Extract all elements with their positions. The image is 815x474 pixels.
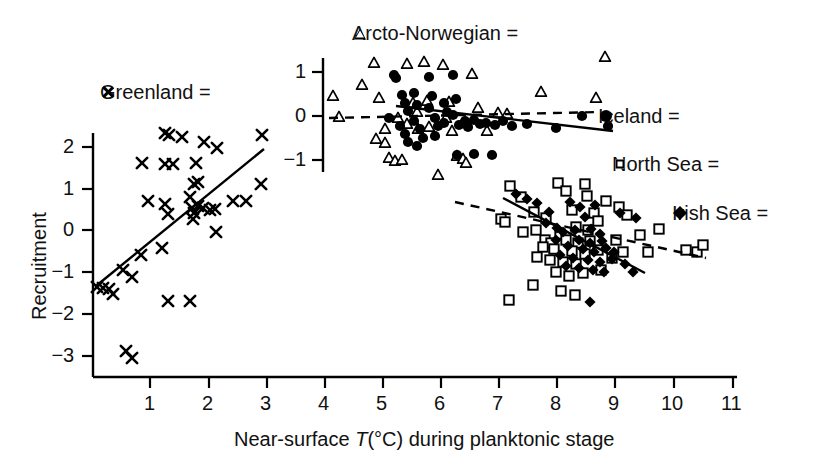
x-axis xyxy=(93,377,737,388)
x-tick-label-5: 5 xyxy=(376,392,387,415)
x-tick-label-3: 3 xyxy=(260,392,271,415)
filled-circle-icon xyxy=(598,108,614,124)
x-tick-label-4: 4 xyxy=(318,392,329,415)
y-axis-title: Recruitment xyxy=(28,212,51,320)
legend-greenland-label: Greenland = xyxy=(100,81,211,104)
x-axis-title-symbol: T xyxy=(355,428,367,450)
legend-irish-sea: Irish Sea = xyxy=(672,205,688,221)
filled-diamond-icon xyxy=(672,205,688,221)
legend-north-sea-label: North Sea = xyxy=(612,153,719,176)
left-y-axis xyxy=(82,133,93,377)
y-tick-label-1: 1 xyxy=(44,177,74,200)
secondary-y-axis xyxy=(312,58,323,172)
secondary-y-tick-label-1: 1 xyxy=(276,60,306,83)
x-tick-label-9: 9 xyxy=(608,392,619,415)
x-axis-title: Near-surface T(°C) during planktonic sta… xyxy=(234,428,614,451)
secondary-y-tick-label-neg1: −1 xyxy=(270,148,306,171)
x-axis-title-prefix: Near-surface xyxy=(234,428,355,450)
y-tick-label-neg3: −3 xyxy=(38,344,74,367)
x-axis-title-suffix: (°C) during planktonic stage xyxy=(367,428,614,450)
chart-canvas xyxy=(0,0,815,474)
legend-greenland: Greenland = xyxy=(100,84,116,100)
open-square-icon xyxy=(612,156,628,172)
legend-arcto-norwegian-label: Arcto-Norwegian = xyxy=(352,22,518,45)
trendline-greenland xyxy=(96,149,264,286)
x-tick-label-6: 6 xyxy=(434,392,445,415)
legend-iceland: Iceland = xyxy=(598,108,614,124)
x-tick-label-1: 1 xyxy=(144,392,155,415)
secondary-y-tick-label-0: 0 xyxy=(276,104,306,127)
cross-icon xyxy=(100,84,116,100)
x-tick-label-7: 7 xyxy=(492,392,503,415)
x-tick-label-11: 11 xyxy=(721,392,741,415)
x-tick-label-2: 2 xyxy=(202,392,213,415)
legend-north-sea: North Sea = xyxy=(612,156,628,172)
x-tick-label-8: 8 xyxy=(550,392,561,415)
series-greenland-points xyxy=(92,128,267,363)
x-tick-label-10: 10 xyxy=(661,392,683,415)
open-triangle-icon xyxy=(352,25,368,41)
y-tick-label-2: 2 xyxy=(44,135,74,158)
legend-arcto-norwegian: Arcto-Norwegian = xyxy=(352,25,368,41)
scatter-chart-figure: 2 1 0 −1 −2 −3 1 0 −1 1 2 3 4 5 6 7 8 9 … xyxy=(0,0,815,474)
